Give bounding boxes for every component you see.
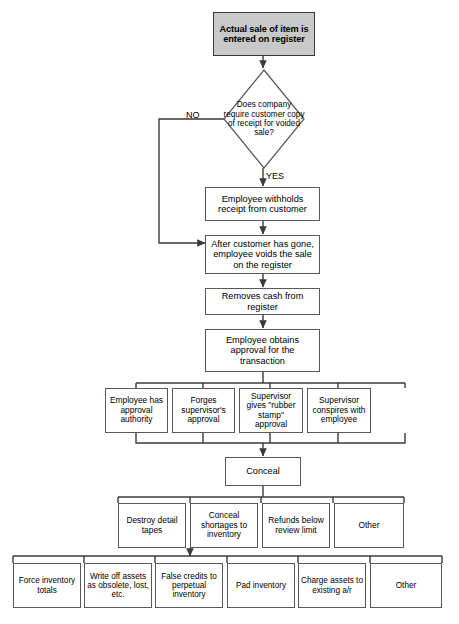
conceal-node: Conceal <box>225 457 301 486</box>
start-node-label: Actual sale of item is entered on regist… <box>216 24 312 45</box>
approval-option-4: Supervisor conspires with employee <box>307 388 371 433</box>
flowchart-canvas: Actual sale of item is entered on regist… <box>0 0 459 624</box>
approval-option-1: Employee has approval authority <box>105 388 168 433</box>
process-step-1: Employee withholds receipt from customer <box>205 187 320 221</box>
conceal-option-3: Refunds below review limit <box>262 503 330 548</box>
conceal-node-label: Conceal <box>228 466 298 476</box>
process-step-3-label: Removes cash from register <box>208 291 317 312</box>
inventory-option-2-label: Write off assets as obsolete, lost, etc. <box>87 572 149 600</box>
process-step-2: After customer has gone, employee voids … <box>205 235 320 274</box>
approval-option-3: Supervisor gives "rubber stamp" approval <box>239 388 303 433</box>
inventory-option-3-label: False credits to perpetual inventory <box>158 572 220 600</box>
inventory-option-4: Pad inventory <box>227 563 295 608</box>
conceal-option-4-label: Other <box>337 521 401 530</box>
inventory-option-6: Other <box>370 563 442 608</box>
inventory-option-1: Force inventory totals <box>13 563 81 608</box>
approval-option-4-label: Supervisor conspires with employee <box>310 396 368 424</box>
conceal-option-1: Destroy detail tapes <box>118 503 186 548</box>
start-node: Actual sale of item is entered on regist… <box>213 12 315 56</box>
approval-option-1-label: Employee has approval authority <box>108 396 165 424</box>
decision-no-label: NO <box>186 111 200 120</box>
inventory-option-1-label: Force inventory totals <box>16 576 78 594</box>
approval-option-2-label: Forges supervisor's approval <box>175 396 232 424</box>
process-step-1-label: Employee withholds receipt from customer <box>208 194 317 215</box>
inventory-option-4-label: Pad inventory <box>230 581 292 590</box>
approval-option-2: Forges supervisor's approval <box>172 388 235 433</box>
conceal-option-1-label: Destroy detail tapes <box>121 516 183 535</box>
decision-yes-label: YES <box>266 172 284 181</box>
process-step-3: Removes cash from register <box>205 288 320 315</box>
conceal-option-4: Other <box>334 503 404 548</box>
process-step-4: Employee obtains approval for the transa… <box>205 329 320 372</box>
inventory-option-2: Write off assets as obsolete, lost, etc. <box>84 563 152 608</box>
inventory-option-6-label: Other <box>373 581 439 590</box>
conceal-option-2-label: Conceal shortages to inventory <box>193 511 255 539</box>
decision-node: Does company require customer copy of re… <box>223 69 305 169</box>
inventory-option-5: Charge assets to existing a/r <box>298 563 366 608</box>
inventory-option-3: False credits to perpetual inventory <box>155 563 223 608</box>
approval-option-3-label: Supervisor gives "rubber stamp" approval <box>242 392 300 430</box>
conceal-option-3-label: Refunds below review limit <box>265 516 327 535</box>
process-step-2-label: After customer has gone, employee voids … <box>208 239 317 270</box>
process-step-4-label: Employee obtains approval for the transa… <box>208 335 317 366</box>
conceal-option-2: Conceal shortages to inventory <box>190 503 258 548</box>
inventory-option-5-label: Charge assets to existing a/r <box>301 576 363 594</box>
decision-node-label: Does company require customer copy of re… <box>223 69 305 169</box>
